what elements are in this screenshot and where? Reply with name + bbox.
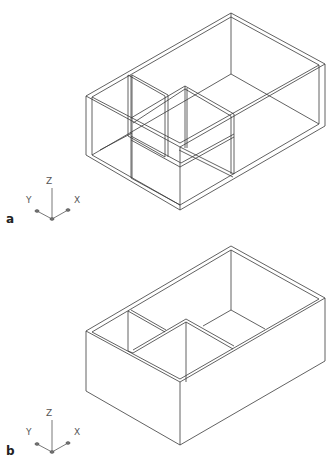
- ucs-axis-icon: [0, 0, 334, 232]
- ucs-axis-icon: [0, 232, 334, 464]
- figure-label-b: b: [6, 444, 15, 458]
- figure-b-hidden-line-view: Z Y X b: [0, 232, 334, 464]
- figure-a-wireframe-view: Z Y X a: [0, 0, 334, 232]
- figure-label-a: a: [6, 212, 14, 226]
